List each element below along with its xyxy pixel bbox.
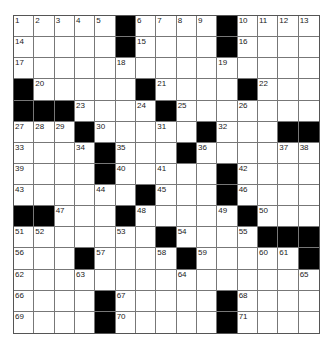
grid-cell[interactable]: 10 [238, 16, 258, 37]
grid-cell[interactable]: 6 [136, 16, 156, 37]
grid-cell[interactable]: 34 [75, 143, 95, 164]
grid-cell[interactable]: 19 [217, 58, 237, 79]
grid-cell[interactable]: 44 [95, 185, 115, 206]
grid-cell[interactable] [278, 58, 298, 79]
grid-cell[interactable] [258, 312, 278, 333]
grid-cell[interactable] [55, 37, 75, 58]
grid-cell[interactable] [156, 291, 176, 312]
grid-cell[interactable] [217, 143, 237, 164]
grid-cell[interactable] [55, 227, 75, 248]
grid-cell[interactable]: 51 [14, 227, 34, 248]
grid-cell[interactable]: 22 [258, 79, 278, 100]
grid-cell[interactable] [258, 291, 278, 312]
grid-cell[interactable] [34, 58, 54, 79]
grid-cell[interactable] [34, 37, 54, 58]
grid-cell[interactable] [299, 185, 319, 206]
grid-cell[interactable]: 64 [177, 270, 197, 291]
grid-cell[interactable] [156, 270, 176, 291]
grid-cell[interactable]: 38 [299, 143, 319, 164]
grid-cell[interactable] [197, 312, 217, 333]
grid-cell[interactable] [258, 122, 278, 143]
grid-cell[interactable] [136, 248, 156, 269]
grid-cell[interactable]: 33 [14, 143, 34, 164]
grid-cell[interactable]: 49 [217, 206, 237, 227]
grid-cell[interactable] [258, 185, 278, 206]
grid-cell[interactable] [156, 58, 176, 79]
grid-cell[interactable]: 43 [14, 185, 34, 206]
grid-cell[interactable]: 47 [55, 206, 75, 227]
grid-cell[interactable] [75, 227, 95, 248]
grid-cell[interactable] [156, 37, 176, 58]
grid-cell[interactable]: 40 [116, 164, 136, 185]
grid-cell[interactable]: 41 [156, 164, 176, 185]
grid-cell[interactable] [299, 312, 319, 333]
grid-cell[interactable] [95, 58, 115, 79]
grid-cell[interactable] [156, 312, 176, 333]
grid-cell[interactable] [238, 58, 258, 79]
grid-cell[interactable] [197, 227, 217, 248]
grid-cell[interactable]: 53 [116, 227, 136, 248]
grid-cell[interactable]: 54 [177, 227, 197, 248]
grid-cell[interactable] [34, 164, 54, 185]
grid-cell[interactable]: 67 [116, 291, 136, 312]
grid-cell[interactable] [278, 206, 298, 227]
grid-cell[interactable] [75, 185, 95, 206]
grid-cell[interactable]: 14 [14, 37, 34, 58]
grid-cell[interactable] [156, 206, 176, 227]
grid-cell[interactable] [197, 37, 217, 58]
grid-cell[interactable] [55, 58, 75, 79]
grid-cell[interactable]: 70 [116, 312, 136, 333]
grid-cell[interactable]: 69 [14, 312, 34, 333]
grid-cell[interactable]: 56 [14, 248, 34, 269]
grid-cell[interactable]: 65 [299, 270, 319, 291]
grid-cell[interactable] [75, 312, 95, 333]
grid-cell[interactable] [95, 37, 115, 58]
grid-cell[interactable] [95, 227, 115, 248]
grid-cell[interactable] [34, 291, 54, 312]
grid-cell[interactable] [197, 79, 217, 100]
grid-cell[interactable] [278, 79, 298, 100]
grid-cell[interactable]: 15 [136, 37, 156, 58]
grid-cell[interactable] [278, 312, 298, 333]
grid-cell[interactable]: 46 [238, 185, 258, 206]
grid-cell[interactable]: 63 [75, 270, 95, 291]
grid-cell[interactable] [278, 291, 298, 312]
grid-cell[interactable]: 12 [278, 16, 298, 37]
grid-cell[interactable]: 9 [197, 16, 217, 37]
grid-cell[interactable] [34, 312, 54, 333]
grid-cell[interactable] [258, 101, 278, 122]
grid-cell[interactable] [197, 185, 217, 206]
grid-cell[interactable] [136, 312, 156, 333]
grid-cell[interactable]: 7 [156, 16, 176, 37]
grid-cell[interactable] [75, 164, 95, 185]
grid-cell[interactable]: 21 [156, 79, 176, 100]
grid-cell[interactable] [55, 164, 75, 185]
grid-cell[interactable]: 39 [14, 164, 34, 185]
grid-cell[interactable] [95, 101, 115, 122]
grid-cell[interactable] [278, 164, 298, 185]
grid-cell[interactable] [177, 122, 197, 143]
grid-cell[interactable] [95, 206, 115, 227]
grid-cell[interactable] [299, 58, 319, 79]
grid-cell[interactable]: 4 [75, 16, 95, 37]
grid-cell[interactable]: 36 [197, 143, 217, 164]
grid-cell[interactable]: 59 [197, 248, 217, 269]
grid-cell[interactable] [258, 164, 278, 185]
grid-cell[interactable] [238, 143, 258, 164]
grid-cell[interactable] [55, 79, 75, 100]
grid-cell[interactable] [177, 37, 197, 58]
grid-cell[interactable] [197, 101, 217, 122]
grid-cell[interactable] [217, 79, 237, 100]
grid-cell[interactable]: 30 [95, 122, 115, 143]
grid-cell[interactable] [299, 37, 319, 58]
grid-cell[interactable]: 28 [34, 122, 54, 143]
grid-cell[interactable] [156, 143, 176, 164]
grid-cell[interactable]: 11 [258, 16, 278, 37]
grid-cell[interactable]: 52 [34, 227, 54, 248]
grid-cell[interactable]: 5 [95, 16, 115, 37]
grid-cell[interactable] [177, 312, 197, 333]
grid-cell[interactable]: 29 [55, 122, 75, 143]
grid-cell[interactable]: 16 [238, 37, 258, 58]
grid-cell[interactable] [258, 143, 278, 164]
grid-cell[interactable] [75, 79, 95, 100]
